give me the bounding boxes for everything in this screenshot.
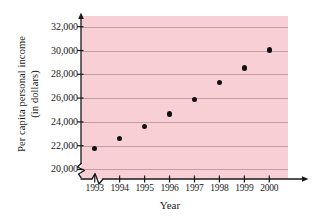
gridline: [81, 51, 288, 52]
y-tick-label: 24,000: [34, 117, 78, 127]
x-axis-tick-labels: 19931994199519961997199819992000: [0, 183, 318, 197]
chart-figure: Per capita personal income (in dollars) …: [0, 0, 318, 223]
data-point: [167, 111, 173, 117]
y-tick-label: 26,000: [34, 93, 78, 103]
gridline: [81, 169, 288, 170]
x-axis-title-text: Year: [160, 199, 180, 211]
x-tick-label: 2000: [251, 183, 287, 194]
data-point: [117, 136, 123, 142]
y-tick-label: 28,000: [34, 69, 78, 79]
gridline: [81, 146, 288, 147]
y-tick-label: 30,000: [34, 46, 78, 56]
y-tick-label: 32,000: [34, 22, 78, 32]
x-axis-title: Year: [0, 199, 318, 211]
data-point: [267, 47, 273, 53]
data-point: [217, 80, 223, 86]
data-point: [142, 124, 148, 130]
data-point: [92, 146, 98, 152]
data-point: [192, 97, 198, 103]
y-axis-title-line1: Per capita personal income: [16, 36, 27, 152]
y-tick-label: 22,000: [34, 141, 78, 151]
y-tick-label: 20,000: [34, 164, 78, 174]
data-point: [242, 65, 248, 71]
plot-area: [81, 16, 288, 179]
gridline: [81, 27, 288, 28]
gridline: [81, 122, 288, 123]
gridline: [81, 74, 288, 75]
gridline: [81, 98, 288, 99]
